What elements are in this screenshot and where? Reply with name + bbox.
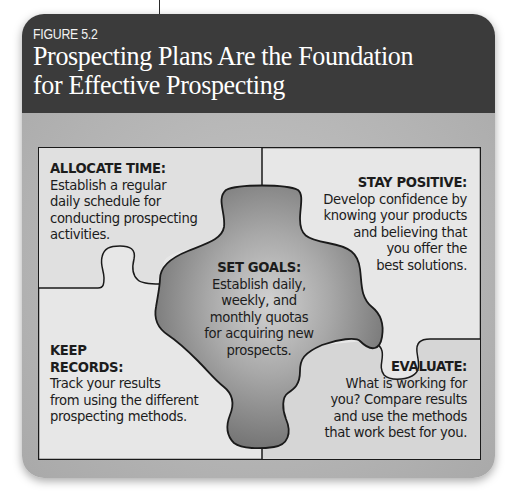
piece-body-line: knowing your products [267, 208, 467, 225]
piece-body-line: and believing that [267, 225, 467, 242]
puzzle-diagram: ALLOCATE TIME: Establish a regular daily… [38, 147, 481, 460]
figure-title-line-2: for Effective Prospecting [33, 70, 461, 99]
figure-title-line-1: Prospecting Plans Are the Foundation [33, 41, 461, 70]
piece-heading: KEEP [50, 343, 250, 360]
piece-heading: SET GOALS: [186, 260, 332, 277]
piece-heading: EVALUATE: [257, 359, 467, 376]
piece-evaluate: EVALUATE: What is working for you? Compa… [257, 359, 467, 442]
figure-title: Prospecting Plans Are the Foundation for… [33, 41, 461, 99]
piece-body-line: and use the methods [257, 409, 467, 426]
piece-heading: ALLOCATE TIME: [50, 161, 250, 178]
piece-body-line: activities. [50, 227, 250, 244]
piece-body-line: from using the different [50, 393, 250, 410]
piece-body-line: you? Compare results [257, 392, 467, 409]
figure-header: FIGURE 5.2 Prospecting Plans Are the Fou… [22, 14, 495, 113]
piece-heading: RECORDS: [50, 360, 250, 377]
piece-body-line: weekly, and [186, 293, 332, 310]
diagram-panel: ALLOCATE TIME: Establish a regular daily… [22, 113, 495, 478]
piece-body-line: you offer the [267, 241, 467, 258]
piece-keep-records: KEEP RECORDS: Track your results from us… [50, 343, 250, 426]
piece-body-line: prospecting methods. [50, 409, 250, 426]
piece-body-line: Develop confidence by [267, 192, 467, 209]
piece-body-line: monthly quotas [186, 310, 332, 327]
piece-body-line: Track your results [50, 376, 250, 393]
piece-body-line: Establish daily, [186, 277, 332, 294]
piece-body-line: Establish a regular [50, 178, 250, 195]
piece-body-line: conducting prospecting [50, 211, 250, 228]
figure-card: FIGURE 5.2 Prospecting Plans Are the Fou… [22, 14, 495, 478]
piece-body-line: daily schedule for [50, 194, 250, 211]
piece-body-line: for acquiring new [186, 326, 332, 343]
piece-body-line: that work best for you. [257, 425, 467, 442]
piece-allocate-time: ALLOCATE TIME: Establish a regular daily… [50, 161, 250, 244]
leader-line [159, 0, 160, 15]
piece-body-line: What is working for [257, 376, 467, 393]
piece-heading: STAY POSITIVE: [267, 175, 467, 192]
